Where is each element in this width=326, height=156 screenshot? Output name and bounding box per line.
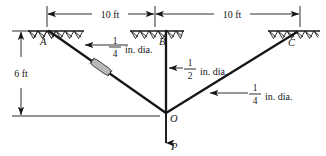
callout-member-co: 1 4 in. dia. (210, 83, 293, 106)
callout-ao-unit: in. dia. (125, 44, 153, 55)
load-label-p: P (170, 141, 178, 152)
dimension-span-left: 10 ft (48, 9, 154, 20)
figure-container: 10 ft 10 ft 6 ft A B (0, 0, 326, 156)
turnbuckle-sleeve (90, 58, 112, 77)
callout-ao-denominator: 4 (113, 49, 118, 59)
callout-member-ao: 1 4 in. dia. (85, 36, 153, 59)
dimension-group-top: 10 ft 10 ft (47, 6, 300, 27)
dimension-label-span-right: 10 ft (223, 9, 242, 20)
callout-member-bo: 1 2 in. dia. (169, 58, 228, 81)
dimension-label-span-left: 10 ft (101, 9, 120, 20)
dimension-span-right: 10 ft (156, 9, 299, 20)
node-label-a: A (39, 36, 47, 47)
turnbuckle-ao (90, 58, 112, 77)
node-label-c: C (288, 37, 296, 48)
callout-co-denominator: 4 (253, 96, 258, 106)
callout-bo-unit: in. dia. (200, 66, 228, 77)
dimension-label-height: 6 ft (14, 68, 28, 79)
callout-co-numerator: 1 (253, 83, 258, 93)
node-o: O (170, 113, 178, 124)
members-group (49, 31, 297, 113)
support-b-hatching (131, 31, 183, 39)
callout-ao-numerator: 1 (113, 36, 118, 46)
callout-bo-numerator: 1 (188, 58, 193, 68)
callout-co-unit: in. dia. (265, 91, 293, 102)
callout-bo-denominator: 2 (188, 71, 193, 81)
node-label-o: O (170, 113, 178, 124)
support-a: A (28, 31, 84, 47)
truss-diagram: 10 ft 10 ft 6 ft A B (0, 0, 326, 156)
